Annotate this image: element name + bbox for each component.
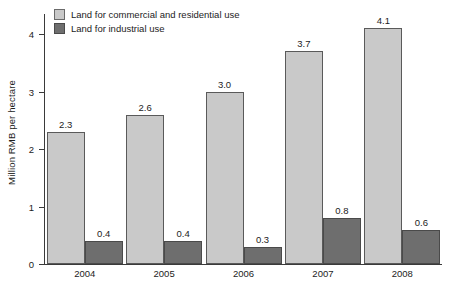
bar-value-label: 0.3: [256, 234, 269, 245]
bar-commercial: 2.3: [47, 132, 85, 264]
legend-label-commercial: Land for commercial and residential use: [71, 9, 239, 20]
y-axis-tick: [39, 207, 44, 208]
bar-value-label: 2.6: [139, 102, 152, 113]
bar-value-label: 0.8: [335, 205, 348, 216]
legend: Land for commercial and residential use …: [54, 9, 239, 34]
y-axis-tick-label: 2: [14, 144, 34, 155]
y-axis-tick: [39, 149, 44, 150]
x-axis-label: 2006: [204, 268, 283, 279]
y-axis-tick-label: 1: [14, 201, 34, 212]
bar-industrial: 0.6: [402, 230, 440, 264]
bar-chart: Million RMB per hectare 01234 2.30.42.60…: [0, 0, 455, 295]
y-axis-title: Million RMB per hectare: [2, 0, 20, 265]
bar-value-label: 2.3: [59, 119, 72, 130]
bar-group: 4.10.6: [363, 14, 442, 264]
y-axis-tick-label: 3: [14, 86, 34, 97]
bar-value-label: 3.7: [297, 38, 310, 49]
x-axis-labels: 20042005200620072008: [45, 268, 442, 279]
bar-group: 2.30.4: [45, 14, 124, 264]
legend-item-commercial: Land for commercial and residential use: [54, 9, 239, 20]
legend-swatch-commercial-icon: [54, 9, 65, 20]
bar-industrial: 0.4: [85, 241, 123, 264]
bar-commercial: 4.1: [364, 28, 402, 264]
bar-groups: 2.30.42.60.43.00.33.70.84.10.6: [45, 14, 442, 264]
bar-commercial: 3.7: [285, 51, 323, 264]
bar-group: 3.70.8: [283, 14, 362, 264]
x-axis-label: 2005: [124, 268, 203, 279]
bar-group: 2.60.4: [124, 14, 203, 264]
y-axis-tick: [39, 34, 44, 35]
bar-value-label: 0.6: [415, 217, 428, 228]
plot-area: 01234 2.30.42.60.43.00.33.70.84.10.6: [44, 8, 442, 265]
legend-item-industrial: Land for industrial use: [54, 23, 239, 34]
bar-value-label: 4.1: [377, 15, 390, 26]
y-axis-tick: [39, 264, 44, 265]
bar-industrial: 0.4: [164, 241, 202, 264]
bar-value-label: 3.0: [218, 79, 231, 90]
y-axis-tick: [39, 92, 44, 93]
x-axis-label: 2007: [283, 268, 362, 279]
bar-commercial: 2.6: [126, 115, 164, 264]
bar-value-label: 0.4: [177, 228, 190, 239]
x-axis-line: [44, 264, 442, 265]
x-axis-label: 2004: [45, 268, 124, 279]
bar-value-label: 0.4: [97, 228, 110, 239]
legend-label-industrial: Land for industrial use: [71, 23, 164, 34]
x-axis-label: 2008: [363, 268, 442, 279]
bar-commercial: 3.0: [206, 92, 244, 264]
bar-industrial: 0.3: [244, 247, 282, 264]
bar-industrial: 0.8: [323, 218, 361, 264]
bar-group: 3.00.3: [204, 14, 283, 264]
y-axis-tick-label: 0: [14, 259, 34, 270]
y-axis-tick-label: 4: [14, 29, 34, 40]
legend-swatch-industrial-icon: [54, 23, 65, 34]
